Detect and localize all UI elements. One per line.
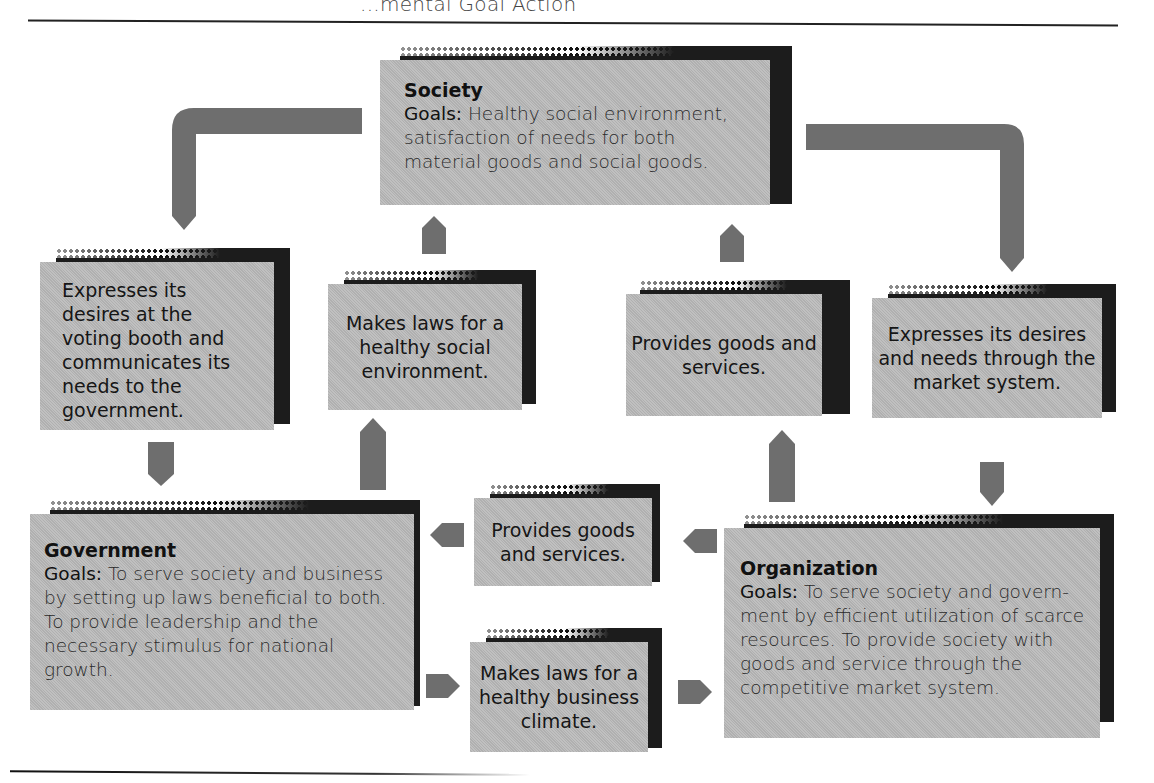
arrow-up-icon	[422, 216, 448, 256]
action-text: Makes laws for a healthy business climat…	[470, 661, 648, 733]
government-title: Government	[44, 538, 400, 562]
arrow-left-icon	[430, 523, 466, 549]
goals-label: Goals:	[44, 563, 102, 584]
bottom-rule-divider	[10, 770, 530, 776]
arrow-left-icon	[683, 529, 719, 555]
arrow-up-icon	[360, 418, 388, 492]
arrow-right-icon	[426, 674, 462, 700]
elbow-arrow-icon	[150, 108, 370, 238]
arrow-down-icon	[148, 442, 176, 488]
action-text: Expresses its desires and needs through …	[872, 322, 1102, 394]
action-card: Provides goods and services.	[474, 498, 652, 586]
top-rule-divider	[28, 20, 1118, 27]
goals-label: Goals:	[740, 581, 798, 602]
action-card: Provides goods and services.	[626, 294, 822, 416]
arrow-up-icon	[769, 430, 797, 504]
figure-title: ...mental Goal Action	[360, 0, 576, 16]
government-card: Government Goals: To serve society and b…	[30, 514, 414, 710]
organization-goals: Goals: To serve society and govern-ment …	[740, 580, 1086, 700]
arrow-up-icon	[720, 224, 746, 264]
action-text: Makes laws for a healthy social environm…	[328, 311, 522, 383]
arrow-right-icon	[678, 680, 714, 706]
action-card: Makes laws for a healthy social environm…	[328, 284, 522, 410]
elbow-arrow-icon	[806, 124, 1026, 274]
organization-title: Organization	[740, 556, 1086, 580]
action-card: Makes laws for a healthy business climat…	[470, 642, 648, 752]
action-text: Provides goods and services.	[626, 331, 822, 379]
action-text: Expresses its desires at the voting boot…	[62, 278, 256, 422]
society-card: Society Goals: Healthy social environmen…	[380, 60, 770, 205]
government-goals: Goals: To serve society and business by …	[44, 562, 400, 682]
goals-label: Goals:	[404, 103, 462, 124]
arrow-down-icon	[980, 462, 1008, 508]
action-card: Expresses its desires at the voting boot…	[40, 262, 274, 430]
society-title: Society	[404, 78, 746, 102]
organization-card: Organization Goals: To serve society and…	[724, 528, 1100, 738]
action-text: Provides goods and services.	[474, 518, 652, 566]
society-goals: Goals: Healthy social environment, satis…	[404, 102, 746, 174]
action-card: Expresses its desires and needs through …	[872, 298, 1102, 418]
